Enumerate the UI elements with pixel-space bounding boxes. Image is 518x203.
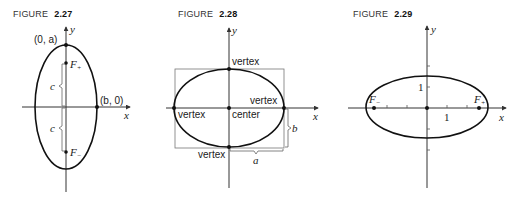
vertex-bottom-label: vertex — [198, 149, 225, 160]
right-vertex-label: (b, 0) — [100, 95, 123, 106]
figures-canvas: x y (0, a) (b, 0) F+ F− c c x y vertex v… — [0, 0, 518, 203]
right-vertex-point — [95, 105, 99, 109]
bracket-upper — [59, 64, 65, 106]
bracket-lower-label: c — [50, 122, 55, 134]
brace-b-label: b — [292, 122, 298, 134]
top-vertex-point — [64, 43, 68, 47]
x-axis-label: x — [498, 111, 504, 123]
center-label: center — [232, 109, 260, 120]
tick-x-label: 1 — [444, 111, 450, 123]
y-axis-label: y — [69, 23, 75, 35]
focus-lower-label: F− — [69, 146, 82, 160]
bracket-upper-label: c — [50, 80, 55, 92]
x-axis-label: x — [312, 110, 318, 122]
vertex-bottom-point — [227, 145, 231, 149]
focus-left-label: F− — [368, 93, 381, 107]
y-axis-label: y — [231, 24, 237, 36]
tick-y-label: 1 — [418, 81, 424, 93]
x-axis-label: x — [123, 109, 129, 121]
vertex-left-label: vertex — [178, 109, 205, 120]
y-axis-label: y — [430, 23, 436, 35]
brace-b — [285, 109, 291, 147]
center-point — [425, 106, 429, 110]
vertex-top-label: vertex — [232, 56, 259, 67]
vertex-right-label: vertex — [250, 95, 277, 106]
figure-2-28: x y vertex vertex vertex center vertex b… — [166, 24, 318, 188]
bracket-lower — [59, 108, 65, 151]
center-point — [227, 106, 231, 110]
figure-2-29: x y 1 1 F− F+ — [348, 23, 506, 188]
vertex-left-point — [172, 106, 176, 110]
focus-upper-label: F+ — [69, 58, 82, 72]
brace-a-label: a — [253, 154, 259, 166]
figure-2-27: x y (0, a) (b, 0) F+ F− c c — [22, 23, 130, 192]
top-vertex-label: (0, a) — [34, 34, 57, 45]
vertex-top-point — [227, 67, 231, 71]
